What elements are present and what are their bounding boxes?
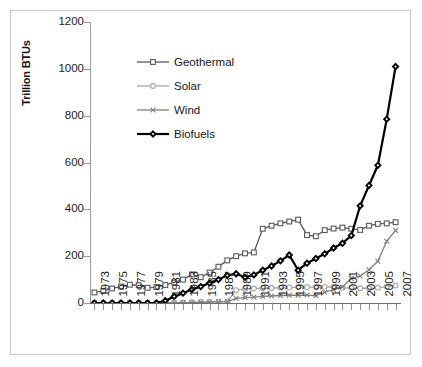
legend-label: Solar bbox=[174, 80, 201, 92]
y-tick-label: 1000 bbox=[38, 63, 84, 74]
y-axis-line bbox=[90, 22, 91, 303]
legend-marker-square-icon bbox=[136, 55, 170, 69]
y-tick-label: 1200 bbox=[38, 16, 84, 27]
legend-item-solar[interactable]: Solar bbox=[136, 74, 266, 98]
x-tick-mark bbox=[165, 304, 166, 310]
legend-marker-diamond-icon bbox=[136, 127, 170, 141]
x-tick-label: 1975 bbox=[117, 271, 129, 311]
x-tick-label: 1977 bbox=[135, 271, 147, 311]
x-tick-mark bbox=[236, 304, 237, 310]
y-tick-label: 0 bbox=[38, 297, 84, 308]
x-tick-mark bbox=[201, 304, 202, 310]
y-tick-label: 400 bbox=[38, 203, 84, 214]
x-tick-mark bbox=[272, 304, 273, 310]
x-tick-label: 1991 bbox=[259, 271, 271, 311]
x-tick-mark bbox=[148, 304, 149, 310]
y-tick-label: 800 bbox=[38, 110, 84, 121]
legend-marker-x-icon bbox=[136, 103, 170, 117]
legend-label: Geothermal bbox=[174, 56, 234, 68]
x-tick-label: 2007 bbox=[401, 271, 413, 311]
x-tick-label: 2005 bbox=[383, 271, 395, 311]
y-tick-label: 200 bbox=[38, 250, 84, 261]
legend-item-wind[interactable]: Wind bbox=[136, 98, 266, 122]
x-tick-label: 1999 bbox=[330, 271, 342, 311]
x-tick-label: 1989 bbox=[241, 271, 253, 311]
x-tick-mark bbox=[307, 304, 308, 310]
y-axis-tick-labels: 020040060080010001200 bbox=[38, 0, 84, 367]
legend-marker-circle-icon bbox=[136, 79, 170, 93]
x-tick-label: 2001 bbox=[347, 271, 359, 311]
x-tick-label: 1981 bbox=[170, 271, 182, 311]
x-tick-mark bbox=[360, 304, 361, 310]
chart-legend: GeothermalSolarWindBiofuels bbox=[136, 50, 266, 146]
x-tick-mark bbox=[396, 304, 397, 310]
legend-label: Wind bbox=[174, 104, 200, 116]
chart-figure: Trillion BTUs 020040060080010001200 1973… bbox=[0, 0, 422, 367]
x-tick-mark bbox=[342, 304, 343, 310]
x-tick-label: 1993 bbox=[277, 271, 289, 311]
x-tick-mark bbox=[94, 304, 95, 310]
x-tick-label: 1985 bbox=[206, 271, 218, 311]
x-tick-label: 2003 bbox=[365, 271, 377, 311]
x-tick-label: 1997 bbox=[312, 271, 324, 311]
x-tick-label: 1979 bbox=[153, 271, 165, 311]
legend-item-biofuels[interactable]: Biofuels bbox=[136, 122, 266, 146]
x-tick-label: 1973 bbox=[99, 271, 111, 311]
x-tick-mark bbox=[112, 304, 113, 310]
x-tick-label: 1983 bbox=[188, 271, 200, 311]
x-tick-mark bbox=[254, 304, 255, 310]
x-tick-mark bbox=[325, 304, 326, 310]
x-tick-label: 1987 bbox=[223, 271, 235, 311]
legend-item-geothermal[interactable]: Geothermal bbox=[136, 50, 266, 74]
x-tick-mark bbox=[183, 304, 184, 310]
x-tick-mark bbox=[218, 304, 219, 310]
y-axis-title: Trillion BTUs bbox=[16, 18, 36, 128]
x-axis-tick-labels: 1973197519771979198119831985198719891991… bbox=[90, 311, 401, 361]
legend-label: Biofuels bbox=[174, 128, 215, 140]
x-tick-mark bbox=[130, 304, 131, 310]
x-tick-mark bbox=[289, 304, 290, 310]
x-tick-label: 1995 bbox=[294, 271, 306, 311]
x-tick-mark bbox=[378, 304, 379, 310]
y-tick-label: 600 bbox=[38, 157, 84, 168]
